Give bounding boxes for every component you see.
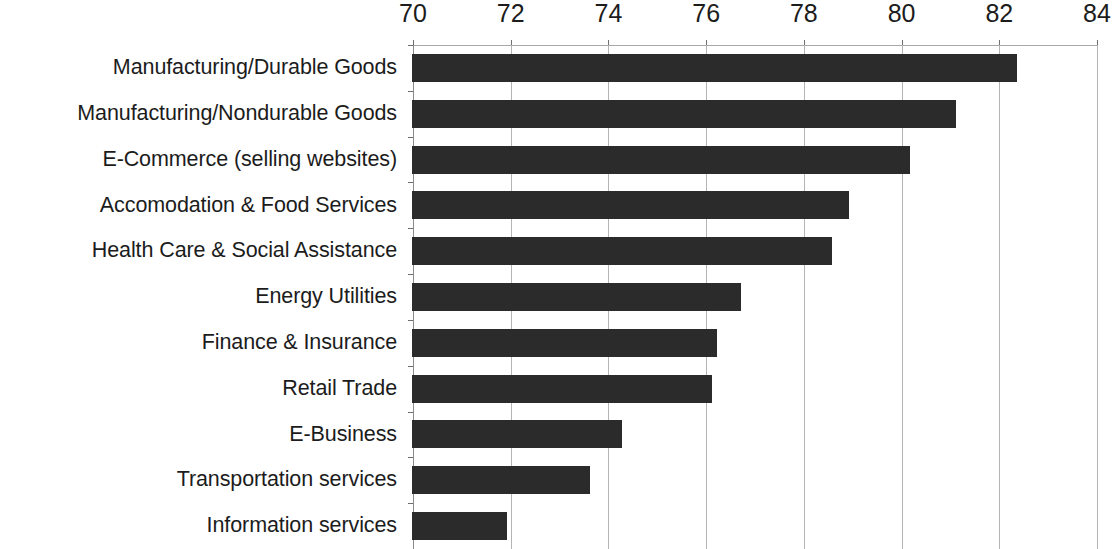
bar[interactable]: [413, 101, 955, 127]
bar-row: [413, 503, 1097, 549]
y-axis-tick-mark: [408, 228, 413, 229]
y-axis-category-label: E-Business: [289, 424, 397, 446]
bar[interactable]: [413, 192, 848, 218]
y-axis-tick-mark: [408, 182, 413, 183]
y-axis-category-label: Manufacturing/Nondurable Goods: [77, 103, 397, 125]
y-axis-tick-mark: [408, 274, 413, 275]
bar[interactable]: [413, 513, 506, 539]
y-axis-category-labels: Manufacturing/Durable GoodsManufacturing…: [0, 45, 406, 549]
x-axis-tick-labels: 7072747678808284: [0, 0, 1117, 45]
bar-row: [413, 320, 1097, 366]
y-axis-tick-mark: [408, 320, 413, 321]
y-axis-category-row: E-Business: [0, 412, 406, 458]
y-axis-category-row: Transportation services: [0, 457, 406, 503]
y-axis-tick-mark: [408, 137, 413, 138]
bar[interactable]: [413, 238, 831, 264]
x-axis-tick-label: 82: [985, 1, 1013, 26]
y-axis-category-row: Retail Trade: [0, 366, 406, 412]
y-axis-category-label: Transportation services: [177, 469, 397, 491]
bar[interactable]: [413, 55, 1016, 81]
y-axis-category-label: E-Commerce (selling websites): [102, 149, 397, 171]
plot-area: [413, 45, 1097, 549]
y-axis-category-row: Energy Utilities: [0, 274, 406, 320]
y-axis-category-label: Accomodation & Food Services: [100, 195, 397, 217]
y-axis-category-row: E-Commerce (selling websites): [0, 137, 406, 183]
y-axis-category-row: Finance & Insurance: [0, 320, 406, 366]
bar-row: [413, 45, 1097, 91]
y-axis-category-label: Energy Utilities: [255, 286, 397, 308]
x-axis-tick-label: 84: [1083, 1, 1111, 26]
bar-row: [413, 137, 1097, 183]
x-axis-tick-label: 80: [888, 1, 916, 26]
bar-row: [413, 412, 1097, 458]
y-axis-category-row: Manufacturing/Nondurable Goods: [0, 91, 406, 137]
y-axis-category-label: Information services: [207, 515, 397, 537]
y-axis-category-row: Manufacturing/Durable Goods: [0, 45, 406, 91]
y-axis-category-row: Accomodation & Food Services: [0, 182, 406, 228]
y-axis-tick-mark: [408, 412, 413, 413]
bar-row: [413, 457, 1097, 503]
y-axis-category-label: Health Care & Social Assistance: [92, 240, 397, 262]
x-axis-tick-label: 78: [790, 1, 818, 26]
bar-row: [413, 91, 1097, 137]
bar[interactable]: [413, 330, 716, 356]
y-axis-category-label: Retail Trade: [282, 378, 397, 400]
bar-series: [413, 45, 1097, 549]
y-axis-tick-mark: [408, 366, 413, 367]
y-axis-tick-mark: [408, 45, 413, 46]
x-axis-tick-label: 76: [692, 1, 720, 26]
bar[interactable]: [413, 467, 589, 493]
bar[interactable]: [413, 147, 909, 173]
y-axis-tick-mark: [408, 503, 413, 504]
y-axis-category-label: Manufacturing/Durable Goods: [113, 57, 397, 79]
y-axis-tick-mark: [408, 457, 413, 458]
chart-page: 7072747678808284 Manufacturing/Durable G…: [0, 0, 1117, 549]
bar-row: [413, 228, 1097, 274]
y-axis-tick-mark: [408, 91, 413, 92]
bar[interactable]: [413, 376, 711, 402]
y-axis-category-row: Information services: [0, 503, 406, 549]
bar[interactable]: [413, 284, 740, 310]
x-axis-tick-label: 70: [399, 1, 427, 26]
x-axis-tick-label: 72: [497, 1, 525, 26]
bar-row: [413, 182, 1097, 228]
bar-row: [413, 366, 1097, 412]
bar-row: [413, 274, 1097, 320]
y-axis-category-label: Finance & Insurance: [202, 332, 397, 354]
bar[interactable]: [413, 421, 621, 447]
gridline: [1097, 45, 1098, 549]
x-axis-tick-label: 74: [595, 1, 623, 26]
y-axis-category-row: Health Care & Social Assistance: [0, 228, 406, 274]
